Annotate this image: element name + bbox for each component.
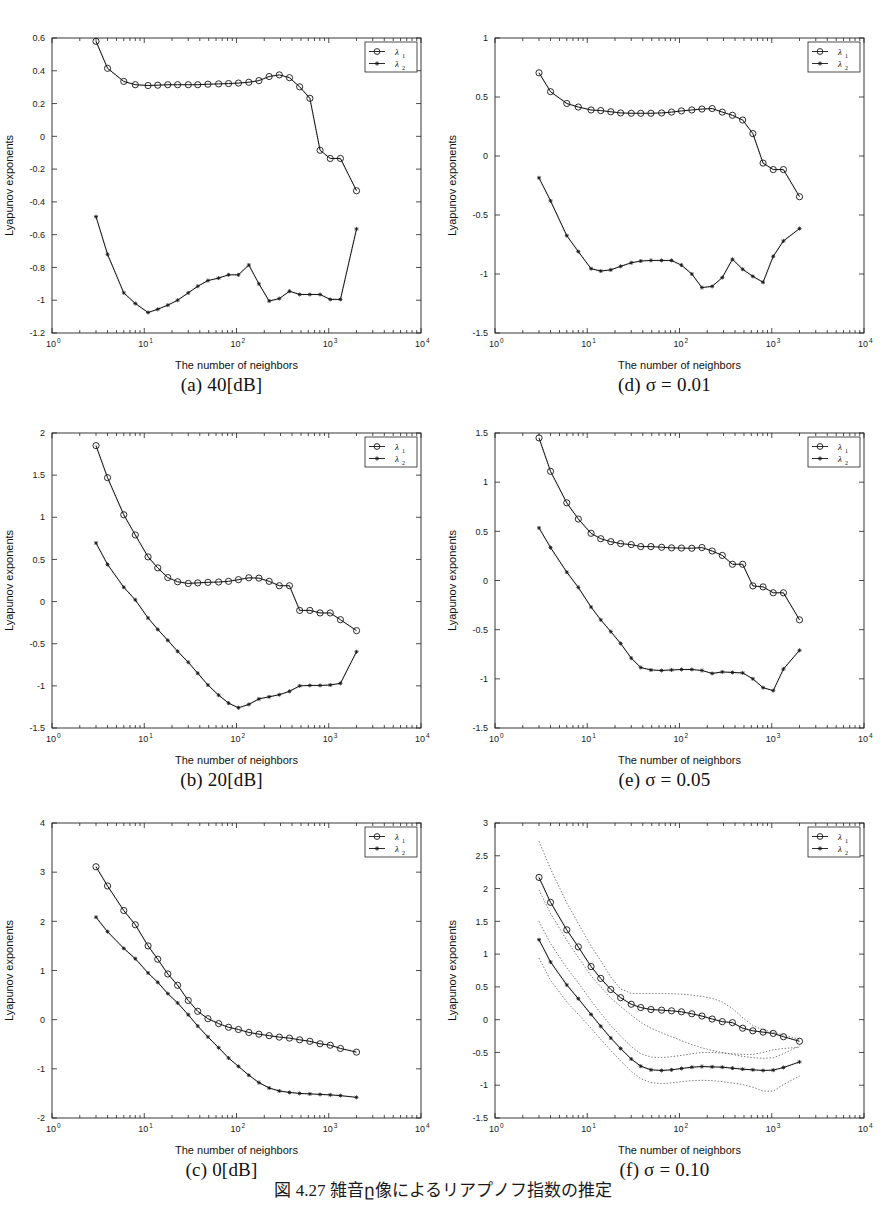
x-tick-label: 102 [674,732,689,745]
y-tick-label: -1 [37,1064,45,1074]
x-tick-label: 102 [674,337,689,350]
figure-bottom-caption: 図 4.27 雑音ը像によるリアプノフ指数の推定 [0,1176,886,1207]
series-markers-λ2 [537,176,802,290]
series-markers-λ1 [536,435,803,623]
series-markers-λ1 [93,38,360,194]
svg-text:3: 3 [777,1122,781,1129]
svg-text:10: 10 [415,1124,425,1134]
svg-text:10: 10 [489,734,499,744]
svg-text:2: 2 [685,337,689,344]
y-tick-label: -0.5 [472,1048,488,1058]
svg-text:1: 1 [149,732,153,739]
y-tick-label: -1 [480,674,488,684]
svg-text:1: 1 [149,337,153,344]
x-tick-label: 103 [766,337,781,350]
subplot-caption-d: (d) σ = 0.01 [443,374,886,396]
y-tick-label: -0.8 [29,263,45,273]
plot-area-c: 100101102103104-2-101234The number of ne… [0,807,443,1162]
subplot-a: 100101102103104-1.2-1-0.8-0.6-0.4-0.200.… [0,22,443,422]
svg-text:4: 4 [869,337,873,344]
x-tick-label: 101 [138,732,153,745]
x-tick-label: 103 [766,1122,781,1135]
y-tick-label: 1 [483,949,488,959]
legend-sub-lambda1: 1 [402,838,405,844]
legend-label-lambda2: λ [837,454,842,464]
series-markers-λ2 [94,915,359,1099]
x-tick-label: 103 [323,1122,338,1135]
svg-text:0: 0 [57,1122,61,1129]
svg-text:1: 1 [149,1122,153,1129]
y-tick-label: 0.6 [32,33,45,43]
y-axis-label: Lyapunov exponents [446,134,458,236]
svg-text:10: 10 [766,734,776,744]
legend-label-lambda2: λ [394,59,399,69]
svg-text:0: 0 [57,337,61,344]
legend[interactable]: λ1λ2 [808,437,860,467]
y-tick-label: -1 [37,295,45,305]
legend-sub-lambda2: 2 [402,460,405,466]
legend-sub-lambda1: 1 [845,53,848,59]
y-tick-label: -1 [480,1080,488,1090]
svg-text:3: 3 [334,337,338,344]
svg-text:10: 10 [581,339,591,349]
series-line-λ1 [96,41,357,190]
legend[interactable]: λ1λ2 [365,437,417,467]
legend[interactable]: λ1λ2 [365,827,417,857]
x-tick-label: 103 [323,337,338,350]
legend-label-lambda2: λ [394,454,399,464]
svg-text:10: 10 [489,1124,499,1134]
x-tick-label: 100 [46,732,61,745]
subplot-e: 100101102103104-1.5-1-0.500.511.5The num… [443,417,886,817]
y-tick-label: 1.5 [475,428,488,438]
series-line-λ2 [96,217,357,313]
legend-label-lambda1: λ [837,832,842,842]
legend-sub-lambda2: 2 [845,460,848,466]
svg-text:2: 2 [242,732,246,739]
x-tick-label: 101 [581,1122,596,1135]
y-tick-label: 0 [483,1015,488,1025]
y-tick-label: 0.5 [475,982,488,992]
svg-text:4: 4 [869,732,873,739]
subplot-c: 100101102103104-2-101234The number of ne… [0,807,443,1207]
y-tick-label: 2 [483,884,488,894]
error-band-upper [539,841,800,1039]
chart-svg-c: 100101102103104-2-101234The number of ne… [0,807,443,1162]
svg-text:10: 10 [231,1124,241,1134]
series-markers-λ2 [537,938,802,1073]
subplot-d: 100101102103104-1.5-1-0.500.51The number… [443,22,886,422]
series-shadow [539,178,800,288]
series-shadow [539,940,800,1071]
y-tick-label: 0 [483,151,488,161]
svg-text:10: 10 [766,1124,776,1134]
svg-text:4: 4 [869,1122,873,1129]
svg-text:0: 0 [500,732,504,739]
legend[interactable]: λ1λ2 [808,42,860,72]
error-band-upper [539,921,800,1057]
y-tick-label: 1 [483,33,488,43]
x-axis-label: The number of neighbors [175,754,298,766]
x-tick-label: 104 [415,337,430,350]
y-tick-label: 1.5 [32,470,45,480]
series-shadow [96,543,357,708]
y-tick-label: 3 [483,818,488,828]
svg-text:10: 10 [489,339,499,349]
legend[interactable]: λ1λ2 [808,827,860,857]
series-line-λ1 [539,877,800,1041]
y-tick-label: -1.2 [29,328,45,338]
plot-area-a: 100101102103104-1.2-1-0.8-0.6-0.4-0.200.… [0,22,443,377]
svg-text:10: 10 [138,339,148,349]
plot-area-b: 100101102103104-1.5-1-0.500.511.52The nu… [0,417,443,772]
legend[interactable]: λ1λ2 [365,42,417,72]
x-tick-label: 101 [138,337,153,350]
y-tick-label: -0.6 [29,230,45,240]
svg-text:4: 4 [426,1122,430,1129]
svg-text:10: 10 [674,734,684,744]
svg-text:10: 10 [766,339,776,349]
series-markers-λ2 [94,541,359,710]
x-axis-label: The number of neighbors [618,359,741,371]
y-tick-label: 4 [40,818,45,828]
x-axis-label: The number of neighbors [618,754,741,766]
plot-frame [495,823,864,1118]
svg-text:10: 10 [46,734,56,744]
series-shadow [96,41,357,190]
